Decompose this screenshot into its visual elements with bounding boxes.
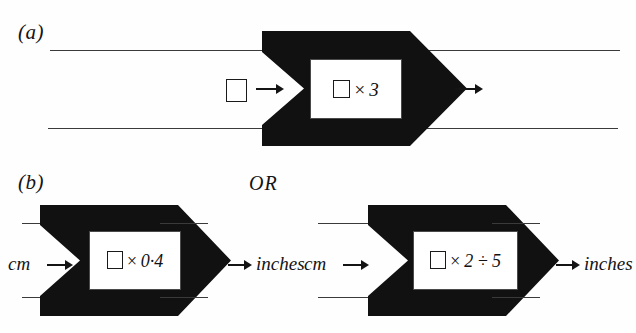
formula-text-a: ×3 [333,80,378,99]
input-box-glyph-a [226,79,247,102]
rail-bottom-b-right-out [492,297,540,298]
rail-top-b-left-out [160,223,208,224]
formula-text-b-right: ×2 ÷ 5 [430,251,501,270]
formula-value-b-left: 0·4 [141,251,164,271]
formula-operator-a: × [350,79,369,100]
input-label-b-left: cm [8,253,30,275]
rail-top-b-right-out [492,223,540,224]
formula-box-glyph-a [333,80,350,98]
output-label-b-right: inches [584,253,633,275]
input-arrow-b-right [343,258,371,272]
formula-operator-b-left: × [123,251,141,271]
formula-text-b-left: ×0·4 [107,251,164,270]
formula-value-a: 3 [369,79,379,100]
figure-canvas: (a) ×3 (b) OR cm [0,0,636,333]
formula-panel-b-right: ×2 ÷ 5 [413,231,518,290]
formula-panel-a: ×3 [310,59,402,119]
formula-value-b-right: 2 ÷ 5 [464,251,501,271]
part-label-a: (a) [18,20,44,45]
output-arrow-a [455,82,485,96]
rail-bottom-b-left-out [160,297,208,298]
or-label: OR [249,172,278,195]
output-label-b-left: inches [256,253,305,275]
formula-box-glyph-b-left [107,251,123,269]
formula-panel-b-left: ×0·4 [89,231,181,290]
rail-top-b-right [318,223,370,224]
output-arrow-b-left [228,258,254,272]
part-label-b: (b) [18,170,44,195]
formula-box-glyph-b-right [430,251,446,269]
input-label-b-right: cm [304,253,326,275]
output-arrow-b-right [556,258,582,272]
formula-operator-b-right: × [446,251,464,271]
rail-bottom-b-right [318,297,370,298]
